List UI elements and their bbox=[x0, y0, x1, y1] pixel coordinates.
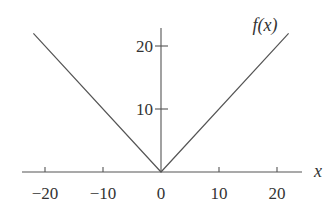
x-axis-label: x bbox=[313, 161, 322, 181]
x-tick-label: 0 bbox=[157, 184, 166, 203]
y-tick-label: 10 bbox=[136, 100, 153, 119]
x-tick-label: −20 bbox=[32, 184, 59, 203]
x-tick-label: 20 bbox=[269, 184, 286, 203]
x-tick-label: 10 bbox=[211, 184, 228, 203]
axes bbox=[22, 28, 302, 172]
function-label: f(x) bbox=[253, 15, 278, 36]
y-tick-label: 20 bbox=[136, 37, 153, 56]
labels: −20−10010201020xf(x) bbox=[32, 15, 322, 203]
x-tick-label: −10 bbox=[90, 184, 117, 203]
function-plot: −20−10010201020xf(x) bbox=[0, 0, 334, 215]
